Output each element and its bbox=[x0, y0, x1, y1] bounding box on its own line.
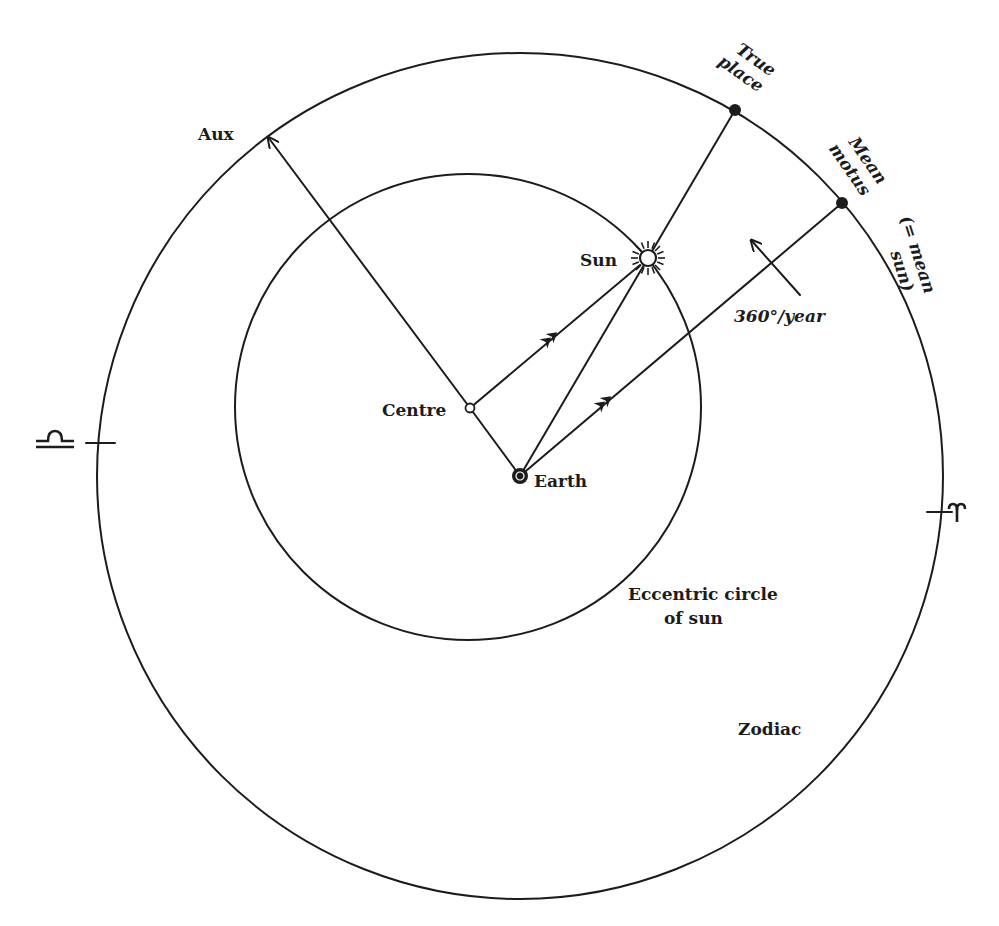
eccentric-circle-label-line2: of sun bbox=[664, 608, 723, 628]
earth-icon bbox=[512, 468, 528, 484]
true-place-dot bbox=[729, 104, 741, 116]
earth-mean-motus-line bbox=[520, 203, 842, 476]
mean-motus-dot bbox=[836, 197, 848, 209]
eccentric-sun-diagram: Aux True place Mean motus (= mean sun) S… bbox=[0, 0, 999, 926]
mean-motus-label: Mean motus bbox=[825, 128, 892, 200]
centre-label: Centre bbox=[382, 400, 447, 420]
zodiac-label: Zodiac bbox=[738, 719, 801, 739]
rate-label: 360°/year bbox=[734, 306, 826, 326]
double-arrow-icon bbox=[540, 328, 562, 349]
earth-label: Earth bbox=[534, 471, 587, 491]
eccentric-circle-label-line1: Eccentric circle bbox=[628, 584, 778, 604]
mean-sun-label: (= mean sun) bbox=[877, 213, 940, 302]
aux-line bbox=[268, 137, 470, 408]
true-place-label: True place bbox=[715, 34, 780, 96]
sun-icon bbox=[631, 241, 665, 275]
sun-label: Sun bbox=[580, 250, 617, 270]
centre-marker bbox=[466, 404, 475, 413]
earth-centre-line bbox=[470, 408, 520, 476]
earth-true-place-line bbox=[520, 110, 735, 476]
double-arrow-icon bbox=[594, 392, 616, 413]
rotation-arrow-icon bbox=[751, 240, 800, 295]
libra-symbol-icon bbox=[36, 431, 74, 447]
aux-label: Aux bbox=[197, 124, 235, 144]
